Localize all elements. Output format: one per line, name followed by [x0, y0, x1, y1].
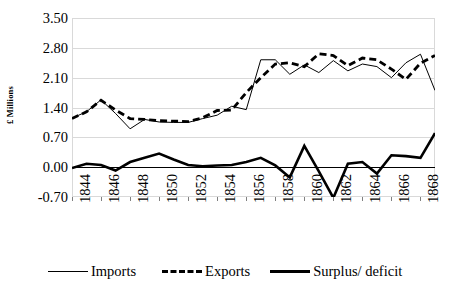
- x-axis-tick-mark: [333, 197, 334, 201]
- legend-label-surplus-deficit: Surplus/ deficit: [310, 264, 402, 279]
- x-axis-tick-mark: [159, 197, 160, 201]
- legend-item-surplus-deficit: Surplus/ deficit: [270, 264, 402, 279]
- chart-legend: Imports Exports Surplus/ deficit: [48, 258, 428, 284]
- legend-swatch-imports-icon: [48, 264, 88, 278]
- legend-label-imports: Imports: [88, 264, 136, 279]
- x-axis-tick-mark: [217, 197, 218, 201]
- x-axis-tick-mark: [362, 197, 363, 201]
- legend-item-imports: Imports: [48, 264, 136, 279]
- legend-swatch-surplus-deficit-icon: [270, 264, 310, 278]
- y-axis-tick-label: 0.70: [20, 130, 68, 145]
- x-axis-tick-mark: [246, 197, 247, 201]
- x-axis-tick-mark: [188, 197, 189, 201]
- x-axis-tick-mark: [72, 197, 73, 201]
- x-axis-tick-mark: [304, 197, 305, 201]
- legend-swatch-exports-icon: [162, 264, 202, 278]
- x-axis-tick-mark: [391, 197, 392, 201]
- y-axis-tick-label: 2.10: [20, 70, 68, 85]
- y-axis-tick-label: 2.80: [20, 41, 68, 56]
- y-axis-tick-label: 0.00: [20, 160, 68, 175]
- x-axis-tick-mark: [101, 197, 102, 201]
- legend-label-exports: Exports: [202, 264, 250, 279]
- x-axis-tick-mark: [130, 197, 131, 201]
- chart-figure: £ Millions 3.502.802.101.400.700.00-0.70…: [0, 0, 451, 298]
- legend-item-exports: Exports: [162, 264, 250, 279]
- plot-area: [72, 18, 435, 197]
- y-axis-tick-labels: 3.502.802.101.400.700.00-0.70: [14, 0, 68, 210]
- x-axis-tick-mark: [275, 197, 276, 201]
- y-axis-tick-label: 1.40: [20, 100, 68, 115]
- y-axis-tick-label: -0.70: [20, 190, 68, 205]
- y-axis-tick-label: 3.50: [20, 11, 68, 26]
- plot-svg: [72, 18, 435, 197]
- x-axis-tick-mark: [420, 197, 421, 201]
